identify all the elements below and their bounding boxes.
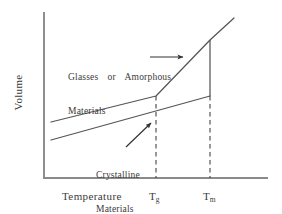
- tick-label-tg-base: T: [149, 190, 156, 202]
- tick-label-tg-subscript: g: [156, 195, 160, 204]
- tick-label-tm: Tm: [203, 190, 216, 203]
- crystalline-annotation-line2: Materials: [96, 204, 140, 214]
- glass-annotation-line2: Materials: [68, 106, 171, 117]
- crystalline-annotation-line1: Crystalline: [96, 170, 140, 181]
- tick-label-tm-base: T: [203, 190, 210, 202]
- tick-label-tm-subscript: m: [210, 195, 216, 204]
- tick-label-tg: Tg: [149, 190, 159, 203]
- crystalline-annotation-label: Crystalline Materials: [96, 148, 140, 214]
- glass-annotation-line1: Glasses or Amorphous: [68, 72, 171, 83]
- y-axis-label: Volume: [12, 56, 25, 128]
- glass-annotation-label: Glasses or Amorphous Materials: [68, 50, 171, 128]
